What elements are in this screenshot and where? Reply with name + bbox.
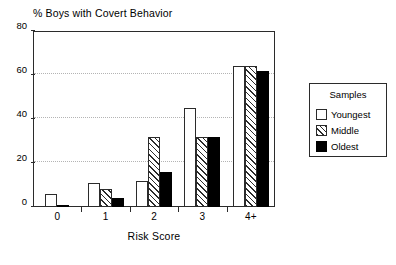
y-axis-tick-label: 20: [16, 151, 27, 162]
bar-middle-1: [100, 189, 112, 207]
x-axis-tick-label: 2: [151, 211, 157, 222]
legend-item-youngest[interactable]: Youngest: [316, 106, 383, 122]
legend-item-label: Oldest: [331, 141, 358, 152]
bar-chart: % Boys with Covert Behavior 020406080 01…: [0, 0, 396, 265]
y-axis-tick-label: 60: [16, 63, 27, 74]
chart-title: % Boys with Covert Behavior: [33, 7, 172, 19]
legend-item-oldest[interactable]: Oldest: [316, 138, 383, 154]
legend-items: YoungestMiddleOldest: [316, 106, 383, 154]
bar-oldest-3: [208, 137, 220, 207]
legend-swatch-middle-icon: [316, 125, 327, 136]
y-axis-tick-label: 80: [16, 19, 27, 30]
bar-group-4plus: [227, 31, 275, 207]
bars-layer: [33, 31, 275, 207]
legend: Samples YoungestMiddleOldest: [309, 83, 387, 157]
bar-group-1: [81, 31, 129, 207]
bar-oldest-4plus: [257, 71, 269, 207]
legend-item-label: Youngest: [331, 109, 370, 120]
bar-middle-4plus: [245, 66, 257, 207]
legend-item-label: Middle: [331, 125, 359, 136]
y-axis-tick-label: 40: [16, 107, 27, 118]
bar-group-0: [33, 31, 81, 207]
legend-swatch-oldest-icon: [316, 141, 327, 152]
bar-oldest-2: [160, 172, 172, 207]
y-axis-tick-label: 0: [22, 195, 27, 206]
x-axis-tick-label: 0: [54, 211, 60, 222]
bar-middle-2: [148, 137, 160, 207]
x-axis-tick-label: 4+: [245, 211, 256, 222]
bar-youngest-4plus: [233, 66, 245, 207]
x-axis-tick-label: 3: [200, 211, 206, 222]
bar-youngest-3: [184, 108, 196, 207]
legend-title: Samples: [310, 89, 386, 100]
x-axis-tick-label: 1: [103, 211, 109, 222]
legend-item-middle[interactable]: Middle: [316, 122, 383, 138]
bar-youngest-2: [136, 181, 148, 207]
bar-middle-3: [196, 137, 208, 207]
legend-swatch-youngest-icon: [316, 109, 327, 120]
bar-youngest-0: [45, 194, 57, 207]
bar-group-3: [178, 31, 226, 207]
x-axis: 01234+: [33, 209, 275, 225]
x-axis-label: Risk Score: [33, 230, 275, 242]
bar-oldest-1: [112, 198, 124, 207]
y-axis: 020406080: [0, 31, 31, 207]
bar-group-2: [130, 31, 178, 207]
bar-youngest-1: [88, 183, 100, 207]
